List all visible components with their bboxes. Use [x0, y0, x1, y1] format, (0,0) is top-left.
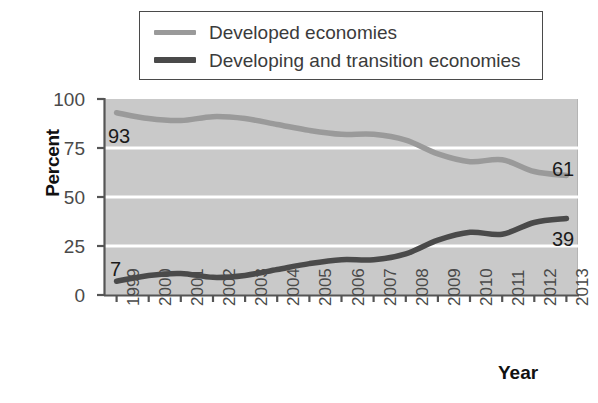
x-tick-label-2010: 2010: [477, 268, 497, 306]
x-axis-ticks: [117, 295, 567, 302]
legend-item-developing: Developing and transition economies: [154, 46, 542, 74]
legend-item-label: Developing and transition economies: [209, 51, 521, 70]
x-tick-label-2000: 2000: [156, 268, 176, 306]
x-tick-label-2001: 2001: [188, 268, 208, 306]
legend-item-developed: Developed economies: [154, 18, 542, 46]
y-tick-label-75: 75: [39, 138, 85, 160]
plot-area: [105, 99, 578, 295]
y-tick-label-100: 100: [39, 89, 85, 111]
annotation-developed-start: 93: [108, 125, 130, 148]
x-tick-label-2006: 2006: [349, 268, 369, 306]
x-tick-label-2011: 2011: [509, 269, 529, 306]
y-tick-label-0: 0: [39, 285, 85, 307]
x-tick-label-2007: 2007: [381, 268, 401, 306]
series-line-developed: [117, 113, 567, 176]
line-swatch-light-icon: [154, 30, 196, 35]
plot-canvas: [105, 99, 578, 295]
y-axis-ticks: [97, 99, 104, 295]
x-tick-label-2008: 2008: [413, 268, 433, 306]
x-tick-label-1999: 1999: [124, 268, 144, 306]
y-tick-label-25: 25: [39, 236, 85, 258]
annotation-developing-end: 39: [552, 228, 574, 251]
chart-figure: Developed economies Developing and trans…: [0, 0, 598, 403]
y-tick-label-50: 50: [39, 187, 85, 209]
x-tick-label-2005: 2005: [316, 268, 336, 306]
annotation-developing-start: 7: [110, 258, 121, 281]
legend-item-label: Developed economies: [209, 23, 397, 42]
x-tick-label-2004: 2004: [284, 268, 304, 306]
x-axis-title: Year: [498, 362, 538, 384]
x-tick-label-2003: 2003: [252, 268, 272, 306]
x-tick-label-2009: 2009: [445, 268, 465, 306]
series-line-developing: [117, 219, 567, 282]
x-tick-label-2012: 2012: [541, 268, 561, 306]
line-swatch-dark-icon: [154, 57, 196, 63]
chart-legend: Developed economies Developing and trans…: [139, 11, 543, 80]
x-tick-label-2013: 2013: [573, 268, 593, 306]
annotation-developed-end: 61: [552, 158, 574, 181]
x-tick-label-2002: 2002: [220, 268, 240, 306]
